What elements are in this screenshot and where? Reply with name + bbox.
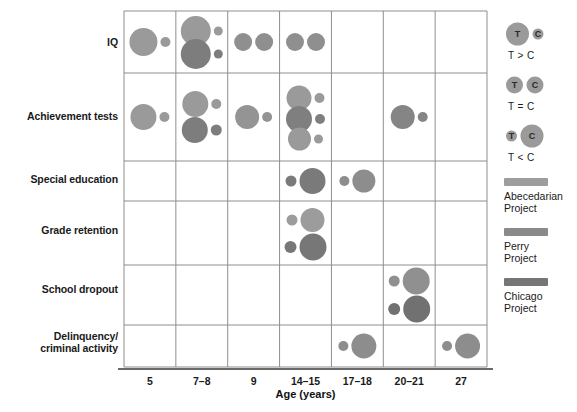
bubble-pair: [285, 234, 327, 261]
bubble-treatment-18: [388, 303, 400, 315]
legend-letter-t-0: T: [515, 29, 521, 39]
bubble-treatment-17: [389, 276, 400, 287]
x-tick-label-5: 20–21: [383, 375, 435, 387]
bubble-pair: [182, 117, 222, 143]
x-tick-label-4: 17–18: [331, 375, 383, 387]
legend-project-line1: Perry: [504, 240, 576, 252]
bubble-control-11: [314, 135, 323, 144]
legend-letter-c-0: C: [535, 29, 542, 39]
bubble-treatment-2: [181, 39, 211, 69]
legend-swatch-abecedarian: [504, 178, 548, 186]
x-tick-label-0: 5: [124, 375, 176, 387]
bubble-pair: [181, 39, 223, 69]
bubble-treatment-11: [288, 128, 311, 151]
bubble-pair: [288, 128, 323, 151]
bubble-treatment-4: [286, 33, 304, 51]
row-label-line1: Achievement tests: [6, 110, 118, 122]
bubble-treatment-14: [339, 176, 349, 186]
bubble-treatment-5: [130, 104, 156, 130]
bubble-control-20: [455, 334, 480, 359]
bubble-control-3: [255, 33, 273, 51]
bubble-chart: TCTCTC IQ Achievement tests Special educ…: [0, 0, 577, 412]
bubble-pair: [235, 105, 272, 129]
bubble-pair: [129, 28, 170, 56]
legend-letter-t-2: T: [509, 131, 515, 141]
bubble-pair: [339, 170, 375, 193]
legend-project-line1: Chicago: [504, 290, 576, 302]
bubble-treatment-20: [442, 341, 452, 351]
legend-project-chicago: Chicago Project: [504, 290, 576, 314]
bubble-control-17: [403, 268, 430, 295]
bubble-control-13: [300, 168, 326, 194]
bubble-treatment-3: [234, 33, 252, 51]
legend-project-abecedarian: Abecedarian Project: [504, 190, 576, 214]
x-axis-title: Age (years): [124, 388, 487, 400]
bubble-control-10: [315, 114, 325, 124]
row-label-line1: Delinquency/: [6, 330, 118, 342]
bubble-treatment-8: [235, 105, 259, 129]
row-label-line1: IQ: [6, 36, 118, 48]
bubble-control-1: [214, 27, 223, 36]
legend-letter-c-1: C: [532, 80, 539, 90]
row-label-delinquency: Delinquency/ criminal activity: [6, 330, 118, 354]
legend-swatch-chicago: [504, 278, 548, 286]
bubble-control-14: [352, 170, 375, 193]
bubble-pair: [286, 168, 326, 194]
row-label-iq: IQ: [6, 36, 118, 48]
bubble-pair: [130, 104, 169, 130]
bubble-control-2: [214, 50, 223, 59]
row-label-special-education: Special education: [6, 173, 118, 185]
legend-project-line2: Project: [504, 252, 576, 264]
bubble-control-0: [160, 37, 170, 47]
legend-relation-caption-2: T < C: [508, 152, 535, 163]
bubble-pair: [388, 296, 430, 323]
bubble-treatment-19: [338, 341, 348, 351]
bubble-pair: [234, 33, 273, 51]
row-label-grade-retention: Grade retention: [6, 224, 118, 236]
legend-letter-t-1: T: [512, 80, 518, 90]
bubble-pair: [389, 268, 430, 295]
legend-relation-caption-0: T > C: [508, 50, 535, 61]
legend-project-perry: Perry Project: [504, 240, 576, 264]
row-label-line2: criminal activity: [6, 342, 118, 354]
bubble-pair: [287, 86, 325, 111]
bubble-treatment-13: [286, 176, 297, 187]
bubble-pair: [286, 106, 325, 132]
bubble-control-7: [211, 125, 222, 136]
row-label-school-dropout: School dropout: [6, 283, 118, 295]
legend-swatch-perry: [504, 228, 548, 236]
x-tick-label-2: 9: [228, 375, 280, 387]
bubble-pair: [182, 91, 221, 117]
row-label-line1: Grade retention: [6, 224, 118, 236]
row-label-line1: School dropout: [6, 283, 118, 295]
bubble-pair: [442, 334, 480, 359]
legend-project-line2: Project: [504, 202, 576, 214]
bubble-control-19: [351, 334, 376, 359]
bubble-control-6: [211, 99, 221, 109]
x-tick-label-6: 27: [435, 375, 487, 387]
bubble-treatment-15: [287, 215, 298, 226]
bubble-control-8: [262, 112, 272, 122]
bubble-control-5: [159, 112, 169, 122]
bubble-control-18: [403, 296, 430, 323]
legend-bubbles: TCTCTC: [506, 23, 544, 148]
row-label-line1: Special education: [6, 173, 118, 185]
row-label-achievement-tests: Achievement tests: [6, 110, 118, 122]
bubble-control-12: [418, 112, 428, 122]
bubble-treatment-12: [391, 105, 415, 129]
legend-relation-caption-1: T = C: [508, 101, 535, 112]
bubble-control-16: [300, 234, 327, 261]
legend-project-line2: Project: [504, 302, 576, 314]
x-tick-label-1: 7–8: [176, 375, 228, 387]
legend-project-line1: Abecedarian: [504, 190, 576, 202]
legend-letter-c-2: C: [529, 131, 536, 141]
bubble-treatment-7: [182, 117, 208, 143]
bubble-control-4: [307, 33, 325, 51]
bubble-pair: [391, 105, 428, 129]
bubble-control-9: [315, 93, 325, 103]
bubble-pair: [286, 33, 325, 51]
bubble-pair: [287, 208, 325, 232]
bubble-treatment-6: [182, 91, 208, 117]
bubble-pair: [338, 334, 376, 359]
bubble-treatment-16: [285, 241, 297, 253]
